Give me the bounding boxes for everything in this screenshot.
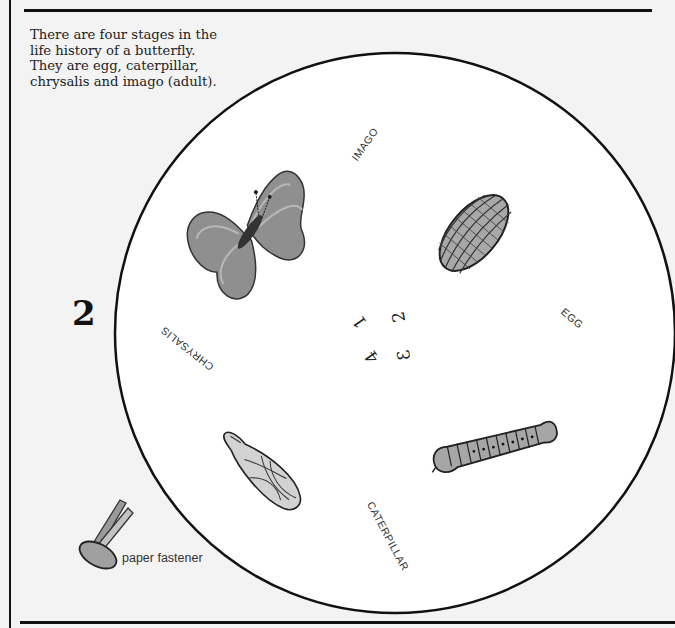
intro-line: life history of a butterfly. bbox=[30, 43, 260, 59]
intro-line: chrysalis and imago (adult). bbox=[30, 74, 260, 90]
intro-line: There are four stages in the bbox=[30, 27, 260, 43]
intro-text: There are four stages in the life histor… bbox=[30, 27, 260, 89]
worksheet-page: There are four stages in the life histor… bbox=[0, 0, 675, 628]
page-number: 2 bbox=[72, 293, 96, 333]
paper-fastener-label: paper fastener bbox=[122, 551, 203, 565]
intro-line: They are egg, caterpillar, bbox=[30, 58, 260, 74]
